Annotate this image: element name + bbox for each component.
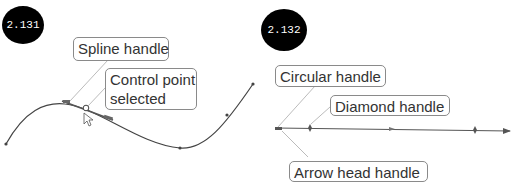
figure-badge: 2.132 xyxy=(261,9,307,51)
spline-handle-left[interactable] xyxy=(63,100,70,103)
callout-line-2: selected xyxy=(110,89,192,108)
selected-control-point[interactable] xyxy=(83,105,89,111)
callout-arrow-head-handle: Arrow head handle xyxy=(289,161,428,182)
leader-diamond-handle xyxy=(311,107,330,124)
circular-handle[interactable] xyxy=(275,127,282,130)
arrow-small-icon[interactable] xyxy=(389,127,395,131)
spline-point[interactable] xyxy=(225,113,228,116)
callout-control-point-selected: Control point selected xyxy=(105,68,197,110)
leader-circular-handle xyxy=(278,86,315,127)
arrow-head-handle[interactable] xyxy=(503,128,511,134)
diagram-art xyxy=(0,0,516,185)
callout-spline-handle: Spline handle xyxy=(73,37,169,61)
diamond-handle[interactable] xyxy=(473,126,477,134)
callout-circular-handle: Circular handle xyxy=(275,65,386,87)
spline-endpoint-start[interactable] xyxy=(4,142,7,145)
mouse-cursor-icon xyxy=(84,113,93,126)
spline-point[interactable] xyxy=(178,146,181,149)
figure-badge: 2.131 xyxy=(2,6,44,44)
callout-line-1: Control point xyxy=(110,70,192,89)
diamond-handle[interactable] xyxy=(308,124,312,132)
leader-spline-handle xyxy=(70,60,108,101)
leader-control-point xyxy=(88,88,105,106)
spline-endpoint-end[interactable] xyxy=(251,82,254,85)
callout-diamond-handle: Diamond handle xyxy=(330,95,450,116)
leader-arrow-head-handle xyxy=(282,131,308,157)
